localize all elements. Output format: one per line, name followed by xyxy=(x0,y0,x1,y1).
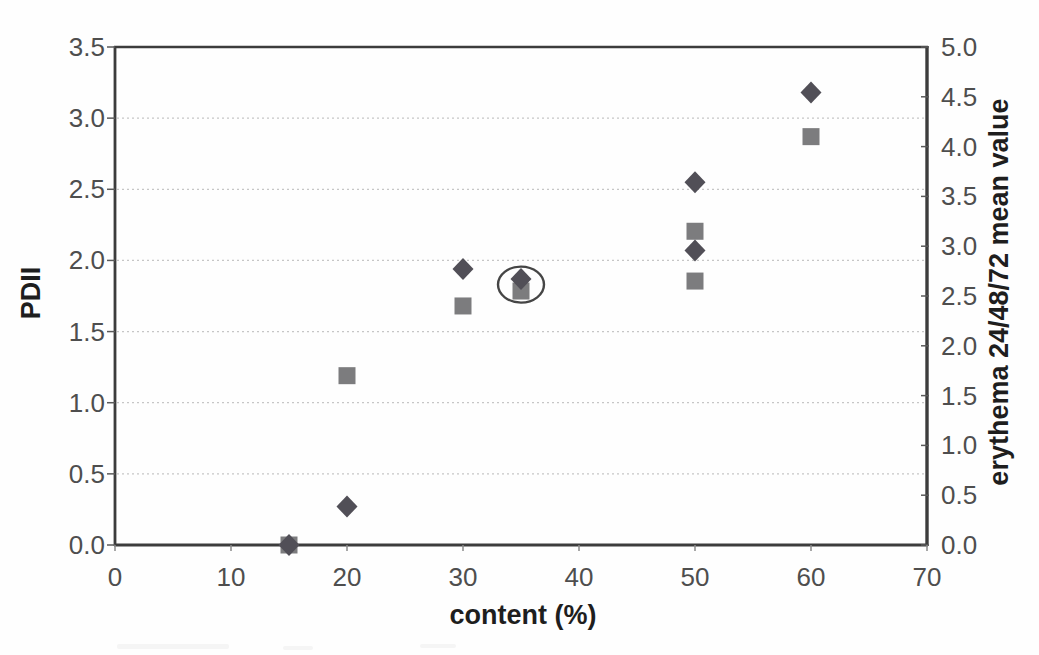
right-axis-tick-label: 2.0 xyxy=(941,331,977,361)
left-axis-tick-label: 0.0 xyxy=(69,530,105,560)
right-axis-tick-label: 1.5 xyxy=(941,381,977,411)
right-axis-tick-label: 3.0 xyxy=(941,231,977,261)
left-axis-tick-label: 0.5 xyxy=(69,459,105,489)
data-point-erythema-square xyxy=(687,223,704,240)
right-axis-tick-label: 1.0 xyxy=(941,430,977,460)
right-axis-tick-label: 0.5 xyxy=(941,480,977,510)
data-point-pdii-diamond xyxy=(453,258,474,280)
scan-artifact xyxy=(420,644,456,648)
right-axis-tick-label: 4.5 xyxy=(941,82,977,112)
data-point-erythema-square xyxy=(455,297,472,314)
x-axis-tick-label: 0 xyxy=(108,562,122,592)
right-axis-tick-label: 5.0 xyxy=(941,32,977,62)
tick-labels-layer: 0.00.51.01.52.02.53.03.50.00.51.01.52.02… xyxy=(69,32,977,592)
left-axis-tick-label: 3.5 xyxy=(69,32,105,62)
right-axis-tick-label: 3.5 xyxy=(941,181,977,211)
x-axis-tick-label: 50 xyxy=(681,562,710,592)
data-point-pdii-diamond xyxy=(337,496,358,518)
scan-artifact xyxy=(117,644,229,649)
left-axis-tick-label: 1.5 xyxy=(69,317,105,347)
data-point-erythema-square xyxy=(803,128,820,145)
left-axis-tick-label: 2.0 xyxy=(69,245,105,275)
x-axis-tick-label: 10 xyxy=(217,562,246,592)
scan-artifact xyxy=(283,646,313,650)
right-axis-tick-label: 2.5 xyxy=(941,281,977,311)
left-axis-title: PDII xyxy=(16,267,46,320)
left-axis-tick-label: 2.5 xyxy=(69,174,105,204)
left-axis-tick-label: 1.0 xyxy=(69,388,105,418)
right-axis-tick-label: 4.0 xyxy=(941,132,977,162)
x-axis-tick-label: 70 xyxy=(913,562,942,592)
scanned-scatter-chart: 0.00.51.01.52.02.53.03.50.00.51.01.52.02… xyxy=(0,0,1039,655)
x-axis-title: content (%) xyxy=(450,600,597,630)
data-point-pdii-diamond xyxy=(801,82,822,104)
data-point-erythema-square xyxy=(687,273,704,290)
data-point-erythema-square xyxy=(339,367,356,384)
x-axis-tick-label: 60 xyxy=(797,562,826,592)
right-axis-title: erythema 24/48/72 mean value xyxy=(984,98,1014,485)
x-axis-tick-label: 30 xyxy=(449,562,478,592)
data-points-layer xyxy=(279,82,822,556)
x-axis-tick-label: 20 xyxy=(333,562,362,592)
left-axis-tick-label: 3.0 xyxy=(69,103,105,133)
chart-canvas: 0.00.51.01.52.02.53.03.50.00.51.01.52.02… xyxy=(0,0,1039,655)
x-axis-tick-label: 40 xyxy=(565,562,594,592)
right-axis-tick-label: 0.0 xyxy=(941,530,977,560)
data-point-pdii-diamond xyxy=(685,239,706,261)
scan-artifacts xyxy=(117,644,456,650)
